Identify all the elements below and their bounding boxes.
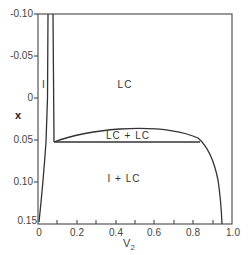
plot-frame [38, 14, 232, 224]
region-label-lc-lc: LC + LC [106, 130, 150, 141]
x-tick-label: 0 [36, 227, 42, 238]
y-tick-label: 0.10 [14, 176, 34, 187]
phase-diagram: -0.10 -0.05 0 0.05 0.10 0.15 0 0.2 0.4 0… [0, 0, 250, 255]
x-axis-label: V2 [123, 237, 135, 252]
region-label-lc: LC [118, 79, 133, 90]
x-tick-label: 1.0 [226, 227, 240, 238]
x-tick-label: 0.8 [186, 227, 200, 238]
x-tick-label: 0.6 [147, 227, 161, 238]
x-tick-label: 0.4 [109, 227, 123, 238]
x-tick-label: 0.2 [70, 227, 84, 238]
region-label-i: I [42, 79, 46, 90]
x-ticks [57, 220, 213, 224]
region-label-i-lc: I + LC [108, 173, 141, 184]
boundary-lc-curve [53, 14, 54, 142]
y-tick-label: 0.15 [18, 215, 38, 226]
y-tick-label: 0.05 [14, 134, 34, 145]
y-axis-label: x [15, 109, 22, 121]
y-tick-label: -0.10 [10, 8, 33, 19]
y-tick-label: 0 [27, 92, 33, 103]
y-tick-label: -0.05 [10, 50, 33, 61]
boundary-i-curve [39, 14, 48, 222]
